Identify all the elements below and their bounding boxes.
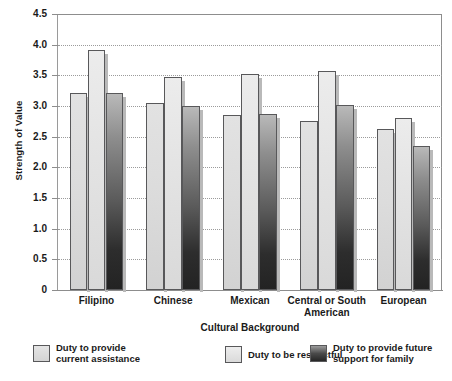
bar[interactable] [164,77,182,290]
bar[interactable] [241,74,259,290]
y-axis-tick-label: 4.0 [0,40,47,50]
y-axis-tick-label: 2.0 [0,162,47,172]
legend-swatch-icon [225,346,242,363]
bars-layer [58,14,442,290]
bar-shadow [277,118,280,292]
y-axis-tick-label: 4.5 [0,9,47,19]
y-axis-tick-label: 3.0 [0,101,47,111]
x-axis-category-label: Mexican [206,295,295,307]
y-axis-tick-label: 1.0 [0,224,47,234]
bar[interactable] [146,103,164,290]
bar[interactable] [300,121,318,290]
bar-shadow [123,97,126,292]
bar-shadow [354,109,357,292]
bar-chart: Strength of Value 00.51.01.52.02.53.03.5… [0,0,452,381]
x-axis-line [57,290,443,291]
bar[interactable] [259,114,277,290]
y-axis-tick-label: 0 [0,285,47,295]
y-axis-tick-label: 1.5 [0,193,47,203]
x-axis-title: Cultural Background [57,322,443,333]
chart-legend: Duty to provide current assistanceDuty t… [0,342,452,376]
bar[interactable] [318,71,336,290]
bar[interactable] [377,129,395,290]
legend-label: Duty to provide future support for famil… [333,342,432,364]
x-axis-category-label: Central or South American [282,295,371,318]
y-axis-tick-label: 2.5 [0,132,47,142]
y-axis-tick [52,290,58,291]
bar[interactable] [106,93,124,290]
legend-swatch-icon [310,345,327,362]
x-axis-category-label: Chinese [129,295,218,307]
x-axis-category-label: European [359,295,448,307]
bar[interactable] [223,115,241,290]
y-axis-tick-label: 3.5 [0,70,47,80]
bar-shadow [200,110,203,292]
bar[interactable] [413,146,431,290]
legend-swatch-icon [33,345,50,362]
x-axis-category-label: Filipino [52,295,141,307]
bar[interactable] [70,93,88,290]
bar[interactable] [395,118,413,290]
bar[interactable] [182,106,200,290]
legend-item[interactable]: Duty to provide future support for famil… [310,342,432,364]
legend-item[interactable]: Duty to provide current assistance [33,342,140,364]
legend-label: Duty to provide current assistance [56,342,140,364]
bar[interactable] [336,105,354,290]
bar-shadow [430,150,433,292]
bar[interactable] [88,50,106,290]
y-axis-tick-label: 0.5 [0,254,47,264]
